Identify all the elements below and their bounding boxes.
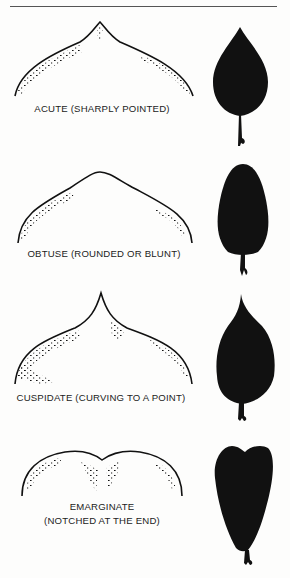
obtuse-label: OBTUSE (ROUNDED OR BLUNT) (0, 247, 208, 260)
emarginate-label: EMARGINATE (0, 500, 204, 513)
emarginate-leaf-silhouette (215, 446, 273, 565)
acute-label: ACUTE (SHARPLY POINTED) (0, 102, 204, 115)
acute-leaf-silhouette (213, 27, 268, 146)
emarginate-tip-outline (22, 451, 182, 496)
cuspidate-tip-outline (15, 293, 192, 384)
obtuse-leaf-silhouette (218, 164, 269, 276)
emarginate-sublabel: (NOTCHED AT THE END) (0, 514, 204, 527)
acute-tip-outline (15, 22, 193, 96)
cuspidate-label: CUSPIDATE (CURVING TO A POINT) (0, 391, 202, 404)
cuspidate-leaf-silhouette (216, 294, 274, 421)
obtuse-tip-outline (18, 172, 192, 243)
leaf-tip-figures (0, 0, 290, 578)
